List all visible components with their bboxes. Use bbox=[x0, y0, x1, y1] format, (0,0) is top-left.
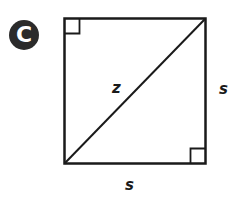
right-angle-marker-top-left bbox=[65, 19, 80, 34]
square-diagonal-figure: C z s s bbox=[0, 0, 230, 203]
square-diagram bbox=[0, 0, 230, 203]
right-side-label: s bbox=[219, 80, 228, 98]
diagonal-line bbox=[65, 19, 206, 164]
diagonal-label: z bbox=[112, 79, 121, 97]
bottom-side-label: s bbox=[125, 176, 134, 194]
right-angle-marker-bottom-right bbox=[191, 149, 206, 164]
